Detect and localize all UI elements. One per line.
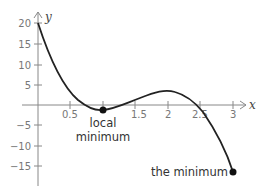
x-tick-label: 3 <box>230 109 236 120</box>
y-tick-label: −10 <box>10 141 31 152</box>
y-tick-label: 15 <box>18 39 31 50</box>
y-tick-label: 20 <box>18 18 31 29</box>
x-tick-label: 1.5 <box>131 109 147 120</box>
global-minimum-point <box>230 169 237 176</box>
y-tick-label: −5 <box>16 120 31 131</box>
function-curve <box>38 23 233 172</box>
x-axis <box>22 101 246 109</box>
y-tick-label: −15 <box>10 161 31 172</box>
y-tick-label: 10 <box>18 60 31 71</box>
x-tick-label: 0.5 <box>62 109 78 120</box>
local-minimum-point <box>100 107 107 114</box>
chart: x y 0.5 1.5 2 2.5 3 20 15 10 5 −5 −10 −1… <box>0 0 265 190</box>
y-axis-label: y <box>44 10 52 24</box>
global-minimum-label: the minimum <box>151 165 228 179</box>
x-axis-label: x <box>249 98 256 112</box>
y-axis <box>34 12 42 186</box>
local-minimum-label: minimum <box>76 130 131 144</box>
x-tick-label: 2 <box>165 109 171 120</box>
y-tick-label: 5 <box>25 80 31 91</box>
local-minimum-label: local <box>90 116 117 130</box>
